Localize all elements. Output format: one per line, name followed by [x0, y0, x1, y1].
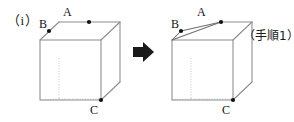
vertex-label-a-after: A [197, 6, 206, 18]
bottom-right-receding-edge [233, 82, 252, 100]
point-b-marker-after [179, 29, 183, 33]
cube-after-hidden-edges [172, 58, 233, 100]
right-arrow-icon [133, 42, 154, 62]
cube-before-graphic [40, 20, 120, 102]
vertex-label-a-before: A [63, 6, 72, 18]
cube-after-graphic [172, 20, 252, 102]
step-caption: （手順1） [243, 30, 294, 42]
cube-after-visible-edges [172, 22, 252, 100]
front-face-outline [40, 40, 101, 100]
top-right-receding-edge [101, 22, 120, 40]
point-c-marker-after [231, 98, 235, 102]
cube-before-visible-edges [40, 22, 120, 100]
bottom-right-receding-edge [101, 82, 120, 100]
cube-before-hidden-edges [40, 58, 101, 100]
vertex-label-b-before: B [39, 18, 47, 30]
point-a-marker-before [87, 20, 91, 24]
figure-container: （i） A B C A B C （手順1） [0, 0, 294, 122]
front-face-outline [172, 40, 233, 100]
vertex-label-c-before: C [90, 104, 98, 116]
point-a-marker-after [219, 20, 223, 24]
vertex-label-b-after: B [171, 18, 179, 30]
vertex-label-c-after: C [222, 104, 230, 116]
point-b-marker-before [47, 29, 51, 33]
enumeration-label: （i） [7, 14, 38, 27]
arrow-shape [133, 42, 154, 62]
point-c-marker-before [99, 98, 103, 102]
